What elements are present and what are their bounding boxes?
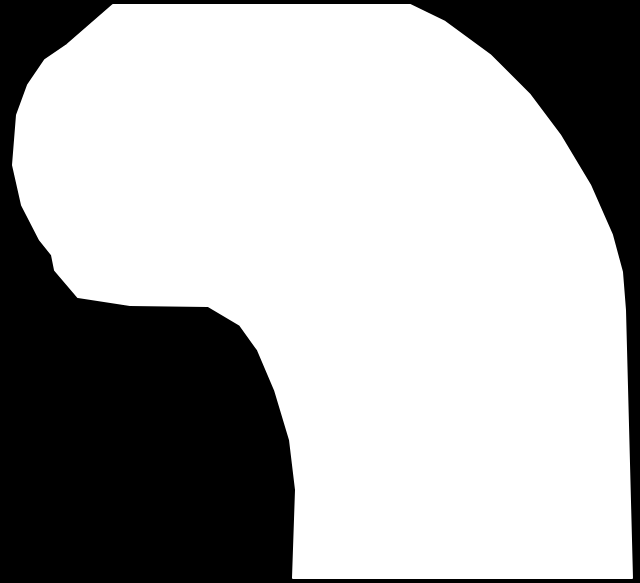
silhouette-graphic xyxy=(0,0,640,583)
silhouette-canvas xyxy=(0,0,640,583)
